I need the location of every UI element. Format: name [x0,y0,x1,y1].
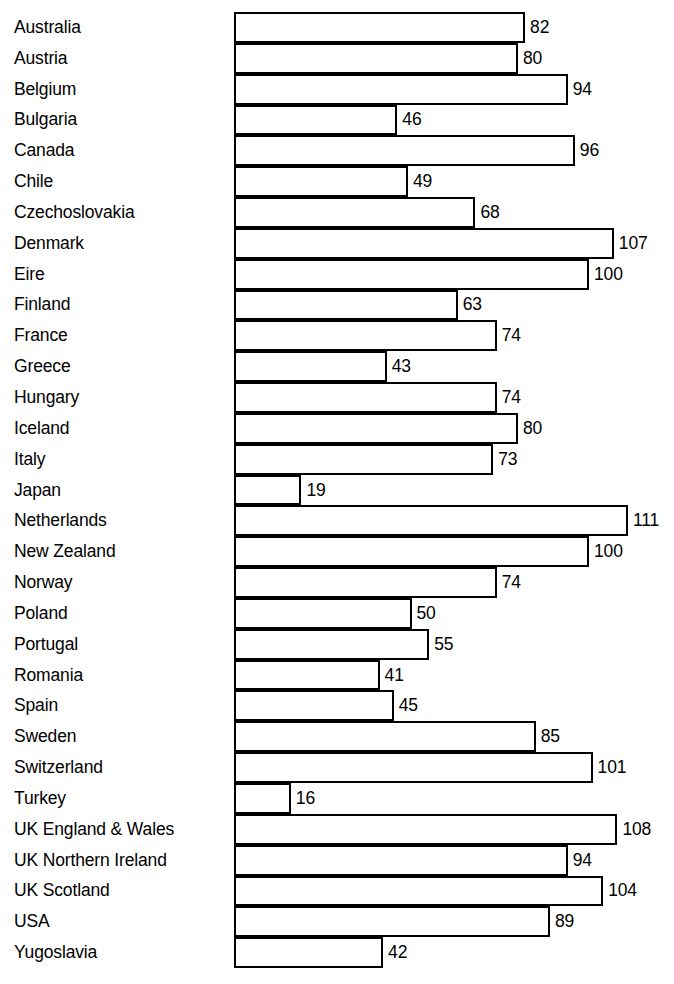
bar-value-label: 111 [633,505,659,536]
bar-value-label: 100 [594,259,623,290]
bar-row: Japan19 [0,475,674,506]
category-label: Hungary [14,382,79,413]
bar-value-label: 101 [598,752,627,783]
category-label: UK Northern Ireland [14,845,167,876]
bar [234,814,617,845]
bar [234,135,575,166]
bar-row: Romania41 [0,660,674,691]
bar-value-label: 46 [402,105,421,136]
bar-row: Austria80 [0,43,674,74]
bar [234,444,493,475]
bar-value-label: 96 [580,135,599,166]
bar-value-label: 19 [306,475,325,506]
bar-value-label: 74 [502,382,521,413]
bar-value-label: 74 [502,320,521,351]
bar [234,382,497,413]
bar-value-label: 85 [541,721,560,752]
bar [234,845,568,876]
bar-row: Australia82 [0,12,674,43]
bar-row: Yugoslavia42 [0,937,674,968]
bar [234,166,408,197]
category-label: Denmark [14,228,84,259]
bar [234,876,603,907]
bar [234,228,614,259]
category-label: Switzerland [14,752,103,783]
category-label: Romania [14,660,83,691]
bar-row: Sweden85 [0,721,674,752]
bar-value-label: 89 [555,906,574,937]
bar-row: Belgium94 [0,74,674,105]
category-label: Austria [14,43,67,74]
bar-value-label: 73 [498,444,517,475]
category-label: Chile [14,166,53,197]
category-label: Belgium [14,74,76,105]
bar-value-label: 55 [434,629,453,660]
category-label: Bulgaria [14,105,77,136]
bar-value-label: 107 [619,228,648,259]
bar-value-label: 43 [392,351,411,382]
category-label: USA [14,906,50,937]
bar-row: Denmark107 [0,228,674,259]
category-label: Canada [14,135,74,166]
bar [234,536,589,567]
bar-row: Eire100 [0,259,674,290]
bar-row: France74 [0,320,674,351]
bar-row: New Zealand100 [0,536,674,567]
category-label: Finland [14,290,70,321]
category-label: Turkey [14,783,66,814]
bar [234,105,397,136]
bar [234,660,380,691]
category-label: Iceland [14,413,69,444]
bar-row: Chile49 [0,166,674,197]
bar-value-label: 82 [530,12,549,43]
bar-row: Turkey16 [0,783,674,814]
category-label: Italy [14,444,45,475]
bar [234,598,412,629]
bar-value-label: 80 [523,413,542,444]
bar [234,937,383,968]
bar [234,74,568,105]
bar-row: Poland50 [0,598,674,629]
bar [234,43,518,74]
bar-value-label: 68 [480,197,499,228]
category-label: Yugoslavia [14,937,97,968]
bar-row: Bulgaria46 [0,105,674,136]
bar [234,752,593,783]
bar-row: Switzerland101 [0,752,674,783]
category-label: Norway [14,567,72,598]
bar-row: UK Scotland104 [0,876,674,907]
horizontal-bar-chart: Australia82Austria80Belgium94Bulgaria46C… [0,0,674,984]
bar-value-label: 45 [399,690,418,721]
category-label: UK England & Wales [14,814,174,845]
bar-value-label: 80 [523,43,542,74]
bar [234,290,458,321]
category-label: Netherlands [14,505,107,536]
category-label: Sweden [14,721,76,752]
bar [234,690,394,721]
bar [234,567,497,598]
category-label: New Zealand [14,536,115,567]
bar-value-label: 63 [463,290,482,321]
bar [234,197,475,228]
bar-value-label: 16 [296,783,315,814]
bar-row: Italy73 [0,444,674,475]
bar-value-label: 108 [622,814,651,845]
chart-rows-container: Australia82Austria80Belgium94Bulgaria46C… [0,0,674,984]
bar-row: Norway74 [0,567,674,598]
bar-row: Spain45 [0,690,674,721]
category-label: Poland [14,598,68,629]
bar-value-label: 104 [608,876,637,907]
category-label: Czechoslovakia [14,197,134,228]
bar-value-label: 50 [417,598,436,629]
bar-value-label: 74 [502,567,521,598]
bar [234,906,550,937]
bar [234,505,628,536]
category-label: Australia [14,12,81,43]
bar [234,629,429,660]
bar-row: USA89 [0,906,674,937]
bar-value-label: 94 [573,845,592,876]
bar-value-label: 94 [573,74,592,105]
bar-row: Finland63 [0,290,674,321]
bar-row: Hungary74 [0,382,674,413]
bar-row: Portugal55 [0,629,674,660]
